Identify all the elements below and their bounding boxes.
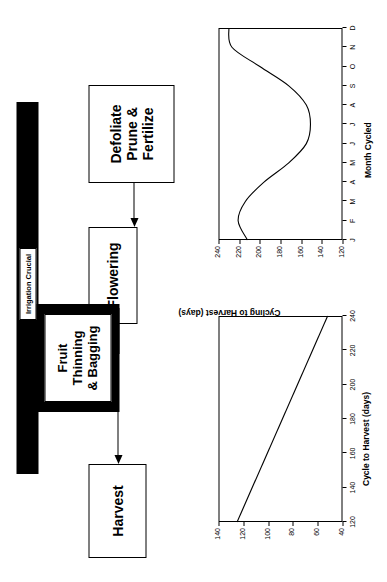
x-tick-label: F <box>348 214 355 228</box>
x-tick-label: A <box>348 175 355 189</box>
y-tick <box>342 240 343 244</box>
chart-harvest-duration-line <box>218 316 342 522</box>
y-tick <box>239 240 240 244</box>
y-tick-label: 240 <box>213 246 220 266</box>
x-tick <box>342 66 346 67</box>
arrowhead-icon <box>112 452 124 464</box>
x-tick-label: J <box>348 117 355 131</box>
x-tick <box>342 104 346 105</box>
x-tick <box>342 220 346 221</box>
chart-harvest-duration-xlabel: Cycle to Harvest (days) <box>360 392 370 486</box>
rotated-figure-stage: Irrigation Crucial Defoliate Prune & Fer… <box>0 0 387 582</box>
y-tick <box>280 240 281 244</box>
arrowhead-icon <box>128 215 140 227</box>
node-defoliate[interactable]: Defoliate Prune & Fertilize <box>88 85 174 183</box>
node-harvest[interactable]: Harvest <box>88 464 146 558</box>
arrow-flowering-to-harvest <box>112 352 124 464</box>
y-tick-label: 40 <box>337 528 344 548</box>
x-tick-label: A <box>348 98 355 112</box>
node-fruit-thinning-line2: & Bagging <box>84 326 99 391</box>
y-tick-label: 100 <box>263 528 270 548</box>
x-tick-label: 200 <box>348 377 355 393</box>
x-tick <box>342 418 346 419</box>
y-tick <box>259 240 260 244</box>
chart-cycling-to-harvest: JFMAMJJASOND 120140160180200220240 Month… <box>210 14 378 282</box>
y-tick-label: 220 <box>234 246 241 266</box>
y-tick-label: 160 <box>296 246 303 266</box>
y-tick <box>317 522 318 526</box>
irrigation-crucial-label: Irrigation Crucial <box>19 248 36 320</box>
y-tick-label: 140 <box>316 246 323 266</box>
figure-page: Irrigation Crucial Defoliate Prune & Fer… <box>0 0 387 582</box>
y-tick <box>321 240 322 244</box>
x-tick-label: S <box>348 79 355 93</box>
x-tick-label: N <box>348 40 355 54</box>
x-tick-label: 220 <box>348 342 355 358</box>
x-tick-label: O <box>348 60 355 74</box>
x-tick <box>342 181 346 182</box>
chart-cycling-to-harvest-ylabel: Cycling to Harvest (days) <box>178 308 280 318</box>
node-flowering-label: Flowering <box>104 242 120 308</box>
x-tick <box>342 200 346 201</box>
chart-cycling-to-harvest-xlabel: Month Cycled <box>362 122 372 178</box>
x-tick <box>342 315 346 316</box>
x-tick <box>342 162 346 163</box>
y-tick-label: 80 <box>287 528 294 548</box>
y-tick-label: 120 <box>337 246 344 266</box>
x-tick <box>342 452 346 453</box>
y-tick <box>301 240 302 244</box>
y-tick <box>218 240 219 244</box>
y-tick <box>292 522 293 526</box>
x-tick <box>342 85 346 86</box>
x-tick-label: 240 <box>348 308 355 324</box>
chart-cycling-to-harvest-curve <box>218 28 342 240</box>
x-tick-label: 160 <box>348 445 355 461</box>
y-tick-label: 60 <box>312 528 319 548</box>
x-tick-label: M <box>348 156 355 170</box>
node-defoliate-line1: Defoliate <box>107 104 123 163</box>
y-tick-label: 200 <box>254 246 261 266</box>
arrow-defoliate-to-flowering <box>128 183 140 227</box>
x-tick <box>342 384 346 385</box>
x-tick-label: D <box>348 21 355 35</box>
x-tick <box>342 123 346 124</box>
chart-harvest-duration: 120140160180200220240 406080100120140 Cy… <box>210 302 378 564</box>
y-tick <box>268 522 269 526</box>
y-tick <box>342 522 343 526</box>
y-tick <box>218 522 219 526</box>
x-tick <box>342 487 346 488</box>
x-tick-label: M <box>348 194 355 208</box>
y-tick-label: 180 <box>275 246 282 266</box>
x-tick-label: J <box>348 233 355 247</box>
y-tick <box>243 522 244 526</box>
x-tick-label: J <box>348 137 355 151</box>
node-harvest-label: Harvest <box>109 485 125 536</box>
y-tick-label: 120 <box>238 528 245 548</box>
irrigation-crucial-text: Irrigation Crucial <box>23 254 32 314</box>
x-tick-label: 140 <box>348 480 355 496</box>
connector-junction-line <box>118 308 119 354</box>
x-tick <box>342 46 346 47</box>
x-tick <box>342 143 346 144</box>
node-fruit-thinning[interactable]: Fruit Thinning & Bagging <box>36 304 119 412</box>
x-tick-label: 120 <box>348 514 355 530</box>
node-fruit-thinning-line1: Fruit Thinning <box>54 331 84 386</box>
x-tick-label: 180 <box>348 411 355 427</box>
y-tick-label: 140 <box>213 528 220 548</box>
x-tick <box>342 349 346 350</box>
node-defoliate-line2: Prune & Fertilize <box>123 107 155 161</box>
x-tick <box>342 27 346 28</box>
